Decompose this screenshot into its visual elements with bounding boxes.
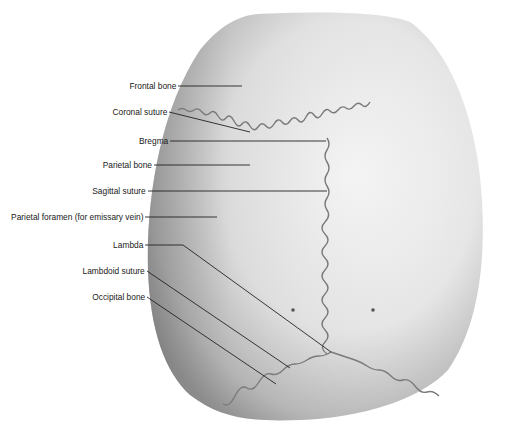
- label-parietal-bone: Parietal bone: [103, 159, 152, 170]
- skull-diagram: Frontal bone Coronal suture Bregma Parie…: [0, 0, 516, 427]
- label-lambda: Lambda: [113, 239, 143, 250]
- label-occipital-bone: Occipital bone: [92, 291, 145, 302]
- label-coronal-suture: Coronal suture: [112, 106, 167, 117]
- label-parietal-foramen: Parietal foramen (for emissary vein): [11, 211, 143, 222]
- label-sagittal-suture: Sagittal suture: [93, 185, 146, 196]
- label-lambdoid-suture: Lambdoid suture: [83, 265, 145, 276]
- parietal-foramen-left: [291, 308, 295, 312]
- label-frontal-bone: Frontal bone: [129, 80, 176, 91]
- label-bregma: Bregma: [139, 135, 168, 146]
- parietal-foramen-right: [371, 308, 375, 312]
